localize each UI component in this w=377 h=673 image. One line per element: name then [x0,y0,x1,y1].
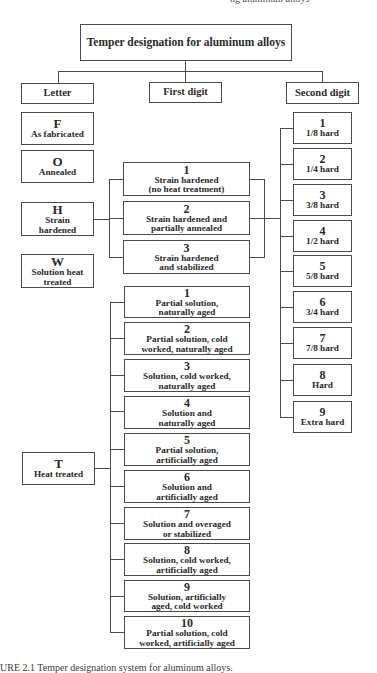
digit-label: 1/4 hard [306,165,339,174]
second-digit-7: 7 7/8 hard [293,327,352,359]
letter-header: Letter [21,83,94,104]
second-digit-6: 6 3/4 hard [293,291,352,323]
connector [110,559,124,560]
digit-label: 3/8 hard [306,201,339,210]
letter-box-w: W Solution heat treated [21,254,94,288]
letter-label: Annealed [39,168,76,177]
digit-label: Hard [312,381,333,390]
digit-number: 1 [184,287,190,299]
connector [322,71,323,82]
letter-box-o: O Annealed [21,150,94,183]
connector [185,71,186,82]
connector [110,449,124,450]
connector [58,71,59,83]
connector [250,257,265,258]
connector [110,632,124,633]
letter-box-t: T Heat treated [22,452,95,485]
connector [110,411,124,412]
connector [109,179,123,180]
digit-label: artificially aged [156,493,218,502]
connector [110,596,124,597]
digit-label: 5/8 hard [306,272,339,281]
t-first-digit-8: 8 Solution, cold worked, artificially ag… [124,543,250,576]
connector [280,200,293,201]
t-first-digit-9: 9 Solution, artificially aged, cold work… [124,580,250,612]
digit-label: 1/8 hard [306,129,339,138]
digit-label: aged, cold worked [151,602,222,611]
title-box: Temper designation for aluminum alloys [80,24,292,61]
second-digit-3: 3 3/8 hard [293,184,352,216]
digit-label: and stabilized [159,263,213,272]
t-first-digit-2: 2 Partial solution, cold worked, natural… [124,322,250,355]
connector [280,417,293,418]
digit-label: naturally aged [159,308,216,317]
digit-label: 1/2 hard [306,237,339,246]
digit-label: 3/4 hard [306,308,339,317]
digit-label: (no heat treatment) [149,185,225,194]
connector [264,179,265,258]
connector [280,380,293,381]
connector [110,302,124,303]
t-first-digit-1: 1 Partial solution, naturally aged [124,286,250,318]
cut-header-text: ng aluminum alloys [230,0,309,4]
second-digit-header-label: Second digit [295,88,350,99]
letter-box-f: F As fabricated [21,112,94,145]
digit-label: naturally aged [159,419,216,428]
first-digit-header-label: First digit [163,87,208,98]
first-digit-header: First digit [149,82,222,103]
diagram-title: Temper designation for aluminum alloys [87,37,286,49]
digit-label: naturally aged [159,382,216,391]
t-first-digit-10: 10 Partial solution, cold worked, artifi… [124,616,250,649]
h-first-digit-1: 1 Strain hardened (no heat treatment) [123,162,250,196]
letter-label: Solution heat treated [24,268,92,286]
digit-label: artificially aged [156,456,218,465]
connector [280,271,293,272]
second-digit-4: 4 1/2 hard [293,220,352,252]
digit-label: 7/8 hard [306,344,339,353]
connector [110,375,124,376]
t-first-digit-3: 3 Solution, cold worked, naturally aged [124,359,250,392]
second-digit-1: 1 1/8 hard [293,112,352,144]
digit-label: worked, artificially aged [139,639,235,648]
digit-number: 1 [184,164,190,176]
connector [94,219,110,220]
digit-number: 9 [184,581,190,593]
connector [109,257,123,258]
connector [250,179,265,180]
t-first-digit-7: 7 Solution and overaged or stabilized [124,507,250,540]
second-digit-8: 8 Hard [293,364,352,396]
second-digit-2: 2 1/4 hard [293,148,352,180]
letter-label: As fabricated [31,130,84,139]
connector [109,218,123,219]
connector [280,164,293,165]
connector [110,338,124,339]
letter-box-h: H Strain hardened [21,202,94,236]
connector [58,71,323,72]
connector [280,307,293,308]
second-digit-5: 5 5/8 hard [293,255,352,287]
connector [280,236,293,237]
letter-header-label: Letter [44,88,72,99]
second-digit-9: 9 Extra hard [293,401,352,433]
connector [280,128,293,129]
connector [95,468,111,469]
h-first-digit-3: 3 Strain hardened and stabilized [123,240,250,274]
second-digit-header: Second digit [286,82,359,104]
connector [110,523,124,524]
digit-label: partially annealed [151,224,222,233]
t-first-digit-4: 4 Solution and naturally aged [124,396,250,429]
connector [280,343,293,344]
digit-number: 2 [184,203,190,215]
connector [280,128,281,418]
digit-number: 3 [184,242,190,254]
figure-caption: URE 2.1 Temper designation system for al… [0,662,233,673]
t-first-digit-5: 5 Partial solution, artificially aged [124,433,250,466]
letter-label: Strain hardened [33,216,83,234]
h-first-digit-2: 2 Strain hardened and partially annealed [123,201,250,235]
digit-label: worked, naturally aged [141,345,232,354]
digit-label: Extra hard [301,418,345,427]
letter-label: Heat treated [34,470,83,479]
connector [110,302,111,633]
digit-label: or stabilized [163,530,211,539]
connector [110,486,124,487]
